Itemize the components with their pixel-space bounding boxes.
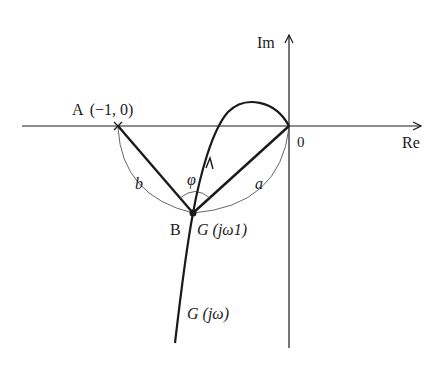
point-b-label: B <box>170 221 181 238</box>
point-b-marker <box>190 210 197 217</box>
point-b-value-label: G (jω1) <box>197 221 247 239</box>
origin-label: 0 <box>297 134 305 150</box>
point-a-label: A (−1, 0) <box>72 101 133 119</box>
angle-phi-label: φ <box>187 171 196 189</box>
vector-a <box>193 126 289 213</box>
segment-b-label: b <box>135 175 143 192</box>
direction-arrow-icon <box>206 158 213 169</box>
imag-axis-label: Im <box>257 34 275 51</box>
curve-label: G (jω) <box>187 305 229 323</box>
real-axis-label: Re <box>402 134 420 151</box>
angle-phi-arc <box>180 192 210 199</box>
nyquist-diagram: Im Re 0 A (−1, 0) B G (jω1) b a φ G (jω) <box>0 0 448 366</box>
segment-a-label: a <box>255 175 263 192</box>
